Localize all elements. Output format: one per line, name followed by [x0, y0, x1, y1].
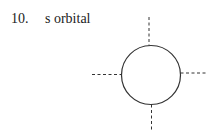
orbital-circle — [122, 46, 181, 105]
s-orbital-diagram — [0, 0, 218, 133]
